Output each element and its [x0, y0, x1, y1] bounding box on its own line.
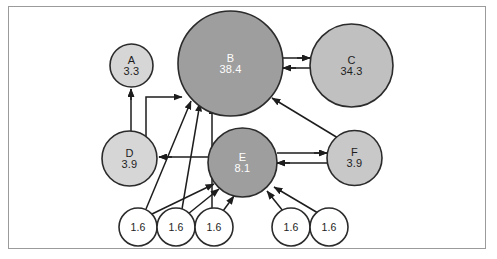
- node-D[interactable]: [102, 131, 157, 186]
- node-F[interactable]: [327, 131, 382, 186]
- figure-root: A 3.3 B 38.4 C 34.3 D 3.9 E 8.1 F 3.9 1.…: [0, 0, 497, 259]
- edge-s3-e: [223, 196, 234, 211]
- diagram-canvas: [0, 0, 497, 259]
- node-S2[interactable]: [157, 208, 195, 246]
- edge-f-b: [272, 98, 338, 138]
- node-S4[interactable]: [272, 208, 310, 246]
- node-C[interactable]: [310, 24, 393, 107]
- node-B[interactable]: [178, 11, 283, 116]
- node-S5[interactable]: [310, 208, 348, 246]
- node-S3[interactable]: [195, 208, 233, 246]
- edge-s2-b: [182, 103, 200, 209]
- node-S1[interactable]: [119, 208, 157, 246]
- edge-s4-e: [267, 191, 283, 211]
- node-E[interactable]: [208, 128, 277, 197]
- node-A[interactable]: [110, 44, 153, 87]
